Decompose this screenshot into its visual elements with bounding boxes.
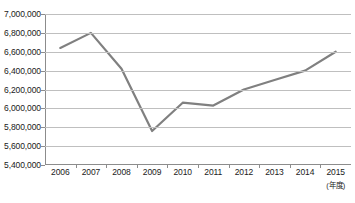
y-axis-label: 5,600,000 <box>4 141 41 151</box>
y-axis-label: 6,000,000 <box>4 103 41 113</box>
gridline <box>45 127 351 128</box>
x-axis-label: 2013 <box>265 167 284 177</box>
y-axis-tick <box>41 165 45 166</box>
y-axis-label: 6,200,000 <box>4 85 41 95</box>
x-axis-unit-label: (年度) <box>326 179 345 190</box>
gridline <box>45 33 351 34</box>
gridline <box>45 90 351 91</box>
gridline <box>45 14 351 15</box>
y-axis-tick <box>41 90 45 91</box>
x-axis-label: 2011 <box>204 167 222 177</box>
gridline <box>45 71 351 72</box>
y-axis-tick <box>41 127 45 128</box>
x-axis-labels: 2006200720082009201020112012201320142015… <box>45 167 351 203</box>
x-axis-label: 2012 <box>235 167 254 177</box>
y-axis-label: 6,800,000 <box>4 28 41 38</box>
line-chart: 7,000,0006,800,0006,600,0006,400,0006,20… <box>0 0 355 203</box>
y-axis-tick <box>41 71 45 72</box>
y-axis-label: 5,800,000 <box>4 122 41 132</box>
x-axis-label: 2015 <box>326 167 345 177</box>
y-axis-label: 7,000,000 <box>4 9 41 19</box>
gridline <box>45 108 351 109</box>
y-axis-tick <box>41 108 45 109</box>
x-axis-label: 2010 <box>173 167 192 177</box>
x-axis-label: 2009 <box>143 167 162 177</box>
x-axis-label: 2008 <box>112 167 131 177</box>
gridline <box>45 52 351 53</box>
y-axis-labels: 7,000,0006,800,0006,600,0006,400,0006,20… <box>0 0 44 203</box>
x-axis-label: 2014 <box>296 167 315 177</box>
plot-area <box>45 14 351 165</box>
y-axis-tick <box>41 14 45 15</box>
y-axis-label: 5,400,000 <box>4 160 41 170</box>
gridline <box>45 146 351 147</box>
y-axis-tick <box>41 146 45 147</box>
x-axis-label: 2006 <box>51 167 70 177</box>
y-axis-label: 6,600,000 <box>4 47 41 57</box>
x-axis-label: 2007 <box>82 167 101 177</box>
y-axis-tick <box>41 33 45 34</box>
y-axis-tick <box>41 52 45 53</box>
y-axis-label: 6,400,000 <box>4 66 41 76</box>
